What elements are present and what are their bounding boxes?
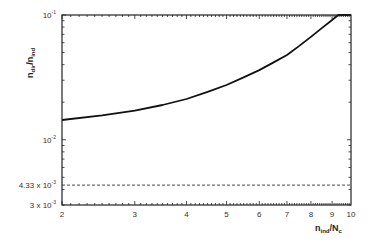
x-tick-label: 6 [257, 210, 262, 219]
chart: 2345678910 10-110-24.33 x 10-33 x 10-3 n… [0, 0, 372, 243]
y-tick-label: 3 x 10-3 [30, 199, 56, 210]
series-layer [62, 15, 351, 185]
x-tick-label: 9 [330, 210, 335, 219]
data-line [62, 15, 351, 120]
y-minor-ticks [62, 15, 351, 205]
y-tick-label: 10-2 [43, 134, 57, 145]
y-axis-label: ndir/nind [25, 47, 36, 78]
x-tick-label: 10 [347, 210, 356, 219]
x-axis-label: nind/Nc [315, 223, 343, 234]
y-tick-label: 4.33 x 10-3 [19, 179, 57, 190]
x-tick-label: 7 [285, 210, 290, 219]
x-tick-label: 3 [133, 210, 138, 219]
x-tick-label: 4 [184, 210, 189, 219]
y-tick-label: 10-1 [43, 9, 57, 20]
x-tick-label: 2 [60, 210, 65, 219]
x-tick-label: 8 [309, 210, 314, 219]
axes-frame [62, 15, 351, 205]
x-tick-labels: 2345678910 [60, 210, 356, 219]
y-tick-labels: 10-110-24.33 x 10-33 x 10-3 [19, 9, 57, 210]
x-tick-label: 5 [224, 210, 229, 219]
x-minor-ticks [62, 15, 349, 205]
